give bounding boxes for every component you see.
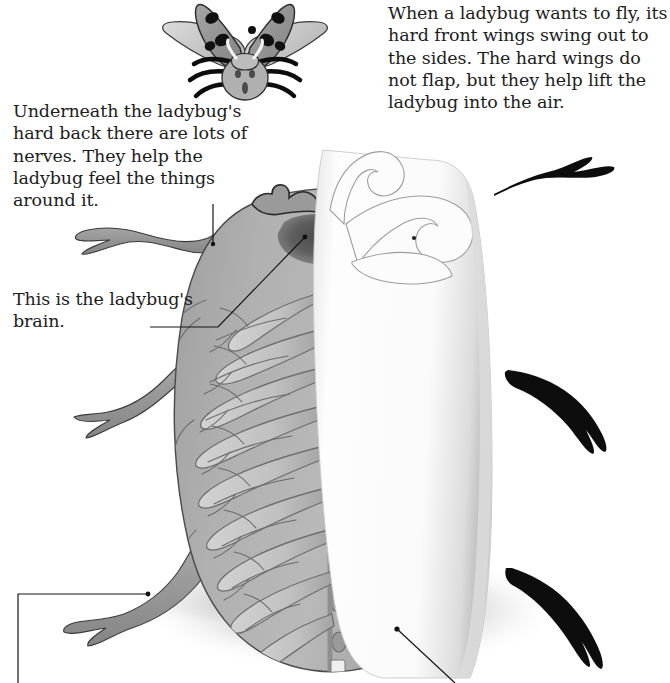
illustration-page: When a ladybug wants to fly, its hard fr… xyxy=(0,0,670,683)
caption-flight: When a ladybug wants to fly, its hard fr… xyxy=(388,2,668,113)
caption-nerves: Underneath the ladybug's hard back there… xyxy=(13,100,248,211)
caption-brain: This is the ladybug's brain. xyxy=(13,288,213,333)
flying-ladybug-group xyxy=(163,5,328,100)
